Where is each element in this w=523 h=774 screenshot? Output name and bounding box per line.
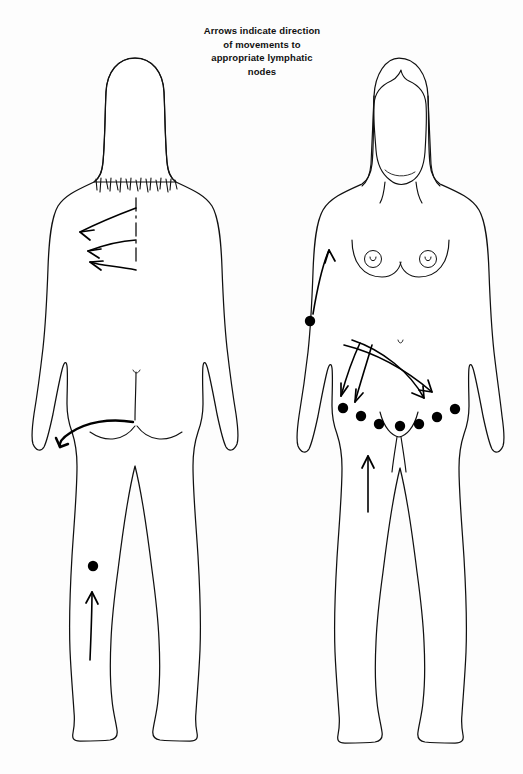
lateral-flank-node: [305, 316, 315, 326]
inguinal-node-1: [338, 403, 348, 413]
inguinal-node-7: [395, 421, 405, 431]
inguinal-node-2: [356, 411, 366, 421]
inguinal-node-3: [374, 419, 384, 429]
inguinal-node-6: [450, 404, 460, 414]
inguinal-node-4: [414, 419, 424, 429]
diagram-page: Arrows indicate direction of movements t…: [0, 0, 523, 774]
anterior-body-outline: [297, 58, 504, 743]
anterior-figure: [297, 58, 504, 743]
popliteal-node: [88, 561, 98, 571]
figures-canvas: [0, 0, 523, 774]
posterior-figure: [32, 58, 238, 741]
inguinal-node-5: [432, 412, 442, 422]
